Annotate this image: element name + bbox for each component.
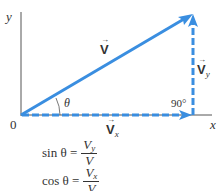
vector-diagram bbox=[0, 0, 223, 191]
y-axis-label: y bbox=[6, 10, 12, 23]
vector-vx-arrow-icon: → bbox=[107, 116, 115, 124]
theta-arc bbox=[56, 98, 60, 115]
x-axis-label: x bbox=[210, 118, 216, 131]
sine-fraction: Vy V bbox=[81, 138, 97, 167]
sine-equation: sin θ = Vy V bbox=[42, 138, 97, 167]
vector-v-arrow-icon: → bbox=[101, 36, 109, 44]
vector-vy-label: Vy bbox=[197, 63, 210, 76]
vector-v-label: V bbox=[100, 43, 109, 56]
vector-vx-label: Vx bbox=[106, 123, 119, 136]
origin-label: 0 bbox=[10, 118, 17, 131]
vector-vy-arrow-icon: → bbox=[198, 56, 206, 64]
right-angle-label: 90° bbox=[171, 98, 186, 109]
theta-angle-label: θ bbox=[64, 97, 70, 109]
cosine-equation: cos θ = Vx V bbox=[42, 166, 99, 191]
cosine-fraction: Vx V bbox=[83, 166, 99, 191]
main-vector-line bbox=[21, 19, 184, 115]
